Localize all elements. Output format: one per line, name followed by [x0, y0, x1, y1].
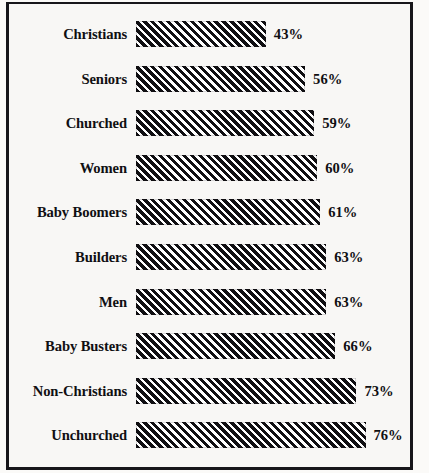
- bar-value-label: 59%: [322, 105, 351, 141]
- bar-value-label: 61%: [328, 194, 357, 230]
- bar-segment: [136, 66, 305, 92]
- bar-category-label: Non-Christians: [9, 373, 127, 409]
- bar-row: Builders63%: [9, 239, 410, 275]
- bar-row: Unchurched76%: [9, 417, 410, 453]
- bar-value-label: 66%: [343, 328, 372, 364]
- bar-category-label: Seniors: [9, 61, 127, 97]
- bar-track: [136, 333, 335, 359]
- bar-value-label: 73%: [364, 373, 393, 409]
- bar-track: [136, 244, 326, 270]
- bar-track: [136, 422, 366, 448]
- bar-row: Non-Christians73%: [9, 373, 410, 409]
- bar-category-label: Unchurched: [9, 417, 127, 453]
- bar-segment: [136, 155, 317, 181]
- bar-segment: [136, 289, 326, 315]
- bar-category-label: Builders: [9, 239, 127, 275]
- bar-category-label: Women: [9, 150, 127, 186]
- bar-value-label: 43%: [274, 16, 303, 52]
- bar-row: Men63%: [9, 284, 410, 320]
- bar-track: [136, 21, 266, 47]
- bar-track: [136, 378, 356, 404]
- bar-segment: [136, 21, 266, 47]
- bar-category-label: Christians: [9, 16, 127, 52]
- bar-track: [136, 110, 314, 136]
- bar-track: [136, 289, 326, 315]
- bar-chart-plot-area: Christians43%Seniors56%Churched59%Women6…: [9, 4, 410, 467]
- bar-row: Baby Boomers61%: [9, 194, 410, 230]
- bar-row: Churched59%: [9, 105, 410, 141]
- bar-track: [136, 155, 317, 181]
- bar-row: Seniors56%: [9, 61, 410, 97]
- bar-track: [136, 199, 320, 225]
- bar-category-label: Baby Busters: [9, 328, 127, 364]
- bar-segment: [136, 422, 366, 448]
- chart-frame: Christians43%Seniors56%Churched59%Women6…: [6, 2, 413, 470]
- bar-value-label: 60%: [325, 150, 354, 186]
- bar-row: Christians43%: [9, 16, 410, 52]
- bar-category-label: Baby Boomers: [9, 194, 127, 230]
- bar-category-label: Churched: [9, 105, 127, 141]
- bar-segment: [136, 378, 356, 404]
- bar-value-label: 56%: [313, 61, 342, 97]
- bar-segment: [136, 199, 320, 225]
- bar-value-label: 63%: [334, 239, 363, 275]
- bar-row: Baby Busters66%: [9, 328, 410, 364]
- bar-track: [136, 66, 305, 92]
- bar-value-label: 76%: [374, 417, 403, 453]
- bar-value-label: 63%: [334, 284, 363, 320]
- bar-row: Women60%: [9, 150, 410, 186]
- bar-segment: [136, 110, 314, 136]
- bar-segment: [136, 244, 326, 270]
- bar-category-label: Men: [9, 284, 127, 320]
- bar-segment: [136, 333, 335, 359]
